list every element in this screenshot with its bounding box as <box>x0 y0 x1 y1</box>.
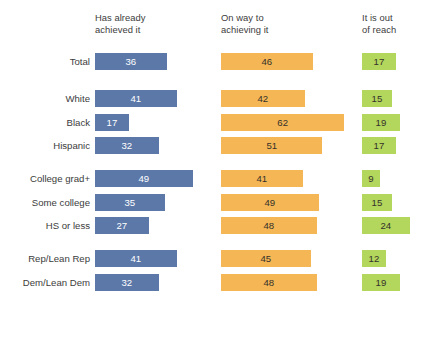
chart-row: Total364617 <box>0 52 439 71</box>
bar-value-label: 41 <box>95 250 177 267</box>
row-label: White <box>0 89 90 108</box>
bar-achieved: 49 <box>95 170 193 187</box>
bar-value-label: 48 <box>221 217 317 234</box>
bar-on-way: 42 <box>221 90 305 107</box>
chart-row: Dem/Lean Dem324819 <box>0 273 439 292</box>
bar-on-way: 48 <box>221 217 317 234</box>
bar-value-label: 32 <box>95 274 159 291</box>
bar-value-label: 15 <box>362 90 392 107</box>
bar-on-way: 46 <box>221 53 313 70</box>
bar-value-label: 17 <box>362 137 396 154</box>
row-label: Black <box>0 113 90 132</box>
chart-row: Some college354915 <box>0 193 439 212</box>
row-label: Total <box>0 52 90 71</box>
chart-row: White414215 <box>0 89 439 108</box>
bar-on-way: 45 <box>221 250 311 267</box>
bar-value-label: 12 <box>362 250 386 267</box>
column-header-on-way: On way to achieving it <box>221 12 269 36</box>
bar-achieved: 36 <box>95 53 167 70</box>
bar-achieved: 32 <box>95 274 159 291</box>
row-group: College grad+49419Some college354915HS o… <box>0 169 439 235</box>
bar-value-label: 48 <box>221 274 317 291</box>
chart-rows: Total364617White414215Black176219Hispani… <box>0 52 439 306</box>
bar-on-way: 62 <box>221 114 344 131</box>
bar-out-of-reach: 17 <box>362 53 396 70</box>
row-group: White414215Black176219Hispanic325117 <box>0 89 439 155</box>
chart-row: College grad+49419 <box>0 169 439 188</box>
bar-on-way: 41 <box>221 170 303 187</box>
bar-out-of-reach: 19 <box>362 114 400 131</box>
column-header-out-of-reach: It is out of reach <box>362 12 396 36</box>
bar-out-of-reach: 15 <box>362 194 392 211</box>
bar-value-label: 41 <box>221 170 303 187</box>
row-label: Dem/Lean Dem <box>0 273 90 292</box>
column-header-achieved: Has already achieved it <box>95 12 146 36</box>
bar-value-label: 46 <box>221 53 313 70</box>
column-header-row: Has already achieved it On way to achiev… <box>0 12 439 46</box>
row-label: HS or less <box>0 216 90 235</box>
bar-value-label: 24 <box>362 217 410 234</box>
chart-row: Hispanic325117 <box>0 136 439 155</box>
chart-row: Rep/Lean Rep414512 <box>0 249 439 268</box>
row-label: College grad+ <box>0 169 90 188</box>
bar-achieved: 41 <box>95 250 177 267</box>
bar-value-label: 19 <box>362 274 400 291</box>
row-label: Rep/Lean Rep <box>0 249 90 268</box>
bar-value-label: 27 <box>95 217 149 234</box>
row-group: Total364617 <box>0 52 439 71</box>
bar-value-label: 36 <box>95 53 167 70</box>
bar-out-of-reach: 24 <box>362 217 410 234</box>
bar-value-label: 9 <box>362 170 380 187</box>
bar-achieved: 17 <box>95 114 129 131</box>
bar-value-label: 41 <box>95 90 177 107</box>
row-label: Some college <box>0 193 90 212</box>
chart-container: Has already achieved it On way to achiev… <box>0 0 439 356</box>
chart-row: Black176219 <box>0 113 439 132</box>
bar-out-of-reach: 19 <box>362 274 400 291</box>
row-label: Hispanic <box>0 136 90 155</box>
bar-value-label: 62 <box>221 114 344 131</box>
chart-row: HS or less274824 <box>0 216 439 235</box>
bar-value-label: 42 <box>221 90 305 107</box>
bar-on-way: 48 <box>221 274 317 291</box>
bar-value-label: 19 <box>362 114 400 131</box>
bar-value-label: 45 <box>221 250 311 267</box>
bar-value-label: 49 <box>221 194 319 211</box>
bar-out-of-reach: 17 <box>362 137 396 154</box>
bar-value-label: 35 <box>95 194 165 211</box>
bar-out-of-reach: 15 <box>362 90 392 107</box>
bar-achieved: 35 <box>95 194 165 211</box>
bar-achieved: 32 <box>95 137 159 154</box>
bar-value-label: 51 <box>221 137 322 154</box>
bar-out-of-reach: 12 <box>362 250 386 267</box>
bar-value-label: 15 <box>362 194 392 211</box>
bar-achieved: 27 <box>95 217 149 234</box>
bar-out-of-reach: 9 <box>362 170 380 187</box>
bar-value-label: 32 <box>95 137 159 154</box>
bar-achieved: 41 <box>95 90 177 107</box>
row-group: Rep/Lean Rep414512Dem/Lean Dem324819 <box>0 249 439 292</box>
bar-on-way: 49 <box>221 194 319 211</box>
bar-value-label: 17 <box>95 114 129 131</box>
bar-value-label: 17 <box>362 53 396 70</box>
bar-value-label: 49 <box>95 170 193 187</box>
bar-on-way: 51 <box>221 137 322 154</box>
